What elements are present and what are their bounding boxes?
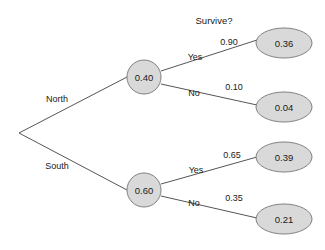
decision-label-north-yes: Yes xyxy=(188,52,203,62)
node-south-yes-leaf[interactable]: 0.39 xyxy=(256,142,312,172)
node-north-no-leaf[interactable]: 0.04 xyxy=(256,92,312,122)
edge-root-to-north xyxy=(19,77,127,133)
probability-label-north-no: 0.10 xyxy=(225,82,243,92)
probability-label-south-no: 0.35 xyxy=(225,193,243,203)
branch-label-north: North xyxy=(46,94,68,104)
probability-label-south-yes: 0.65 xyxy=(223,150,241,160)
decision-tree-diagram: Survive? North South Yes No Yes No 0.90 … xyxy=(0,0,325,250)
decision-label-south-yes: Yes xyxy=(189,165,204,175)
edge-south-yes xyxy=(161,157,257,184)
node-south-value: 0.60 xyxy=(135,185,154,196)
edge-north-yes xyxy=(161,40,257,71)
node-south-yes-value: 0.39 xyxy=(275,152,294,163)
node-south-no-value: 0.21 xyxy=(275,214,294,225)
node-north-yes-leaf[interactable]: 0.36 xyxy=(256,28,312,58)
node-north-yes-value: 0.36 xyxy=(275,38,294,49)
decision-label-south-no: No xyxy=(188,198,200,208)
edge-root-to-south xyxy=(19,133,127,190)
tree-svg: Survive? North South Yes No Yes No 0.90 … xyxy=(0,0,325,250)
survive-heading-label: Survive? xyxy=(196,15,233,26)
node-north-value: 0.40 xyxy=(135,72,154,83)
node-south[interactable]: 0.60 xyxy=(127,173,161,207)
node-south-no-leaf[interactable]: 0.21 xyxy=(256,204,312,234)
branch-label-south: South xyxy=(45,161,69,171)
node-north[interactable]: 0.40 xyxy=(127,60,161,94)
probability-label-north-yes: 0.90 xyxy=(220,37,238,47)
node-north-no-value: 0.04 xyxy=(275,102,294,113)
decision-label-north-no: No xyxy=(188,88,200,98)
